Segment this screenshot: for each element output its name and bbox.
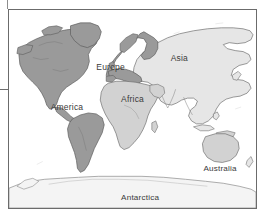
clipped-caption-band: [0, 0, 271, 8]
region-madagascar: [152, 121, 158, 133]
label-europe: Europe: [96, 62, 125, 72]
region-asia-peninsula-detail: [184, 97, 193, 115]
world-map-svg[interactable]: America Europe Asia Africa Australia Ant…: [9, 10, 256, 208]
label-antarctica: Antarctica: [121, 193, 159, 202]
region-africa[interactable]: [100, 81, 158, 149]
label-asia: Asia: [171, 53, 188, 63]
region-indonesia-islands: [194, 125, 215, 131]
label-america: America: [51, 102, 84, 112]
region-scandinavia: [120, 34, 138, 53]
region-japan-islands: [232, 71, 241, 80]
region-australia[interactable]: [202, 134, 239, 163]
region-south-america[interactable]: [68, 113, 105, 172]
label-africa: Africa: [121, 94, 144, 104]
left-vertical-rule: [7, 0, 8, 9]
page-root: America Europe Asia Africa Australia Ant…: [0, 0, 271, 215]
region-new-zealand: [246, 157, 253, 168]
world-map-frame[interactable]: America Europe Asia Africa Australia Ant…: [8, 9, 257, 209]
label-australia: Australia: [203, 164, 237, 173]
